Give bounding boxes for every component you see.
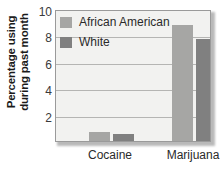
legend-swatch-icon [60,17,72,28]
x-tick-label: Marijuana [167,148,220,162]
legend-item: African American [60,14,170,30]
bar-chart: Percentage using during past month 24681… [0,0,221,171]
legend-label: African American [79,16,170,28]
x-tick-label: Cocaine [88,148,132,162]
x-axis-ticks: CocaineMarijuana [55,148,211,166]
y-axis-ticks: 246810 [28,8,52,142]
y-tick-label: 4 [45,85,52,97]
y-axis-title-line1: Percentage using [5,16,18,109]
bar [172,25,193,141]
legend-label: White [79,36,110,48]
bar [196,39,212,141]
y-tick-label: 2 [45,112,52,124]
legend-swatch-icon [60,37,72,48]
legend-item: White [60,34,170,50]
bar [113,134,134,141]
y-tick-label: 8 [45,32,52,44]
y-tick-label: 10 [39,6,52,18]
y-tick-label: 6 [45,59,52,71]
legend: African AmericanWhite [60,14,170,54]
bar [89,132,110,141]
